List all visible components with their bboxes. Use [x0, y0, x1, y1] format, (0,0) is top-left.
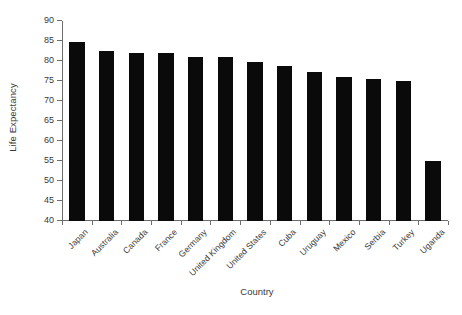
x-axis-tick-mark [418, 221, 419, 225]
x-axis-tick-mark [240, 221, 241, 225]
bar [218, 57, 233, 221]
y-axis-tick-label: 55 [30, 155, 54, 166]
x-axis-tick-mark [389, 221, 390, 225]
x-axis-tick-mark [151, 221, 152, 225]
bar [366, 79, 381, 221]
bar [336, 77, 351, 221]
x-axis-category-label-text: Serbia [362, 227, 387, 252]
y-axis-tick-label: 45 [30, 195, 54, 206]
y-axis-tick-label: 75 [30, 75, 54, 86]
y-axis-tick-label: 50 [30, 175, 54, 186]
x-axis-title-text: Country [240, 286, 273, 297]
y-axis-tick-label: 80 [30, 55, 54, 66]
bar [129, 53, 144, 221]
bar [99, 51, 114, 221]
bar [396, 81, 411, 221]
x-axis-tick-mark [121, 221, 122, 225]
plot-area [62, 21, 448, 221]
x-axis-category-label-text: Canada [121, 227, 150, 256]
bar [69, 42, 84, 221]
bar [158, 53, 173, 221]
x-axis-title: Country [62, 286, 452, 297]
x-axis-category-label-text: Mexico [331, 227, 358, 254]
y-axis-tick-label: 40 [30, 215, 54, 226]
y-axis-tick-label: 90 [30, 15, 54, 26]
x-axis-tick-mark [62, 221, 63, 225]
y-axis-tick-label: 70 [30, 95, 54, 106]
x-axis-tick-mark [210, 221, 211, 225]
bar-chart-figure: Life Expectancy 4045505560657075808590 J… [0, 0, 462, 315]
bar [307, 72, 322, 221]
y-axis-tick-label: 85 [30, 35, 54, 46]
x-axis-tick-mark [181, 221, 182, 225]
x-axis-tick-mark [270, 221, 271, 225]
bar [247, 62, 262, 221]
bar [425, 161, 440, 221]
bar [188, 57, 203, 221]
x-axis-category-label-text: Australia [89, 227, 120, 258]
y-axis-title: Life Expectancy [0, 0, 24, 235]
y-axis-tick-label: 60 [30, 135, 54, 146]
x-axis-tick-mark [92, 221, 93, 225]
y-axis-tick-label: 65 [30, 115, 54, 126]
x-axis-category-label-text: Japan [66, 227, 90, 251]
x-axis-tick-mark [359, 221, 360, 225]
x-axis-category-label-text: Uruguay [297, 227, 327, 257]
x-axis-tick-mark [300, 221, 301, 225]
y-axis-title-text: Life Expectancy [7, 83, 18, 152]
x-axis-tick-mark [329, 221, 330, 225]
x-axis-category-label-text: Turkey [391, 227, 417, 253]
x-axis-tick-mark [448, 221, 449, 225]
x-axis-category-label-text: Uganda [418, 227, 447, 256]
bar [277, 66, 292, 221]
x-axis-category-label-text: Cuba [276, 227, 298, 249]
x-axis-category-label-text: France [153, 227, 179, 253]
